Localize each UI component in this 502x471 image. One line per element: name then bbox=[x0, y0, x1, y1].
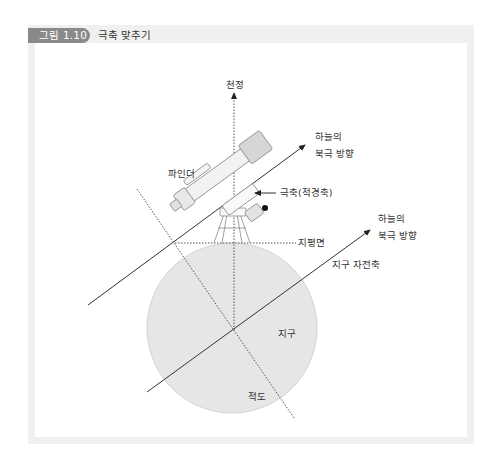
label-polar-axis: 극축(적경축) bbox=[280, 187, 332, 198]
label-equator: 적도 bbox=[248, 391, 266, 402]
label-celestial-pole-lower-2: 북극 방향 bbox=[378, 230, 417, 241]
label-celestial-pole-upper-1: 하늘의 bbox=[315, 131, 342, 142]
label-earth: 지구 bbox=[278, 328, 296, 339]
label-horizon: 지평면 bbox=[298, 237, 325, 248]
counterweight-dot-icon bbox=[262, 205, 268, 211]
label-earth-axis: 지구 자전축 bbox=[332, 259, 380, 270]
telescope-icon bbox=[163, 127, 273, 243]
label-finder: 파인더 bbox=[168, 168, 195, 179]
label-zenith: 천정 bbox=[226, 79, 244, 90]
polar-alignment-diagram: 천정 파인더 극축(적경축) 하늘의 북극 방향 하늘의 북극 방향 지평면 지… bbox=[0, 0, 502, 471]
label-celestial-pole-upper-2: 북극 방향 bbox=[315, 148, 354, 159]
label-celestial-pole-lower-1: 하늘의 bbox=[378, 213, 405, 224]
zenith-arrow-icon bbox=[231, 92, 237, 99]
